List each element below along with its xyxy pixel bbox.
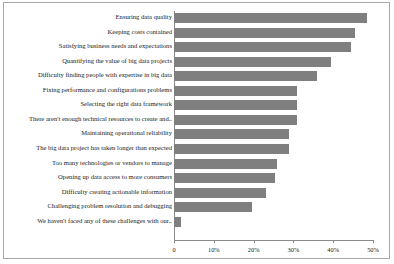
category-label: Quantifying the value of big data projec… xyxy=(4,56,172,67)
bar-row: Challenging problem resolution and debug… xyxy=(0,201,394,216)
bar xyxy=(174,86,297,96)
bar-row: There aren't enough technical resources … xyxy=(0,114,394,129)
category-label: Fixing performance and configurations pr… xyxy=(4,85,172,96)
category-label: Satisfying business needs and expectatio… xyxy=(4,41,172,52)
category-label: Keeping costs contained xyxy=(4,27,172,38)
category-label: Difficulty creating actionable informati… xyxy=(4,187,172,198)
bar-row: Opening up data access to more consumers xyxy=(0,172,394,187)
bar xyxy=(174,159,277,169)
category-label: Challenging problem resolution and debug… xyxy=(4,201,172,212)
x-axis-tick-label: 0 xyxy=(154,245,194,254)
category-label: Selecting the right data framework xyxy=(4,99,172,110)
bar-row: Ensuring data quality xyxy=(0,12,394,27)
x-axis-line xyxy=(174,240,373,241)
bar xyxy=(174,144,289,154)
bar xyxy=(174,129,289,139)
bar-row: Maintaining operational reliability xyxy=(0,128,394,143)
bar xyxy=(174,57,331,67)
bar xyxy=(174,115,297,125)
x-axis-tick-label: 30% xyxy=(273,245,313,254)
bar-row: Quantifying the value of big data projec… xyxy=(0,56,394,71)
x-axis-tick xyxy=(174,240,175,243)
category-label: Maintaining operational reliability xyxy=(4,128,172,139)
bar xyxy=(174,100,297,110)
category-label: We haven't faced any of these challenges… xyxy=(4,216,172,227)
bar-row: Keeping costs contained xyxy=(0,27,394,42)
bar-row: The big data project has taken longer th… xyxy=(0,143,394,158)
bar xyxy=(174,188,266,198)
category-label: Difficulty finding people with expertise… xyxy=(4,70,172,81)
bar xyxy=(174,28,355,38)
x-axis-tick-label: 40% xyxy=(313,245,353,254)
bar xyxy=(174,42,351,52)
category-label: The big data project has taken longer th… xyxy=(4,143,172,154)
x-axis-tick-label: 20% xyxy=(234,245,274,254)
x-axis-tick xyxy=(333,240,334,243)
category-label: Too many technologies or vendors to mana… xyxy=(4,158,172,169)
bar-row: Fixing performance and configurations pr… xyxy=(0,85,394,100)
bar xyxy=(174,13,367,23)
bar-row: We haven't faced any of these challenges… xyxy=(0,216,394,231)
bar-row: Difficulty finding people with expertise… xyxy=(0,70,394,85)
bar-row: Satisfying business needs and expectatio… xyxy=(0,41,394,56)
bar-row: Selecting the right data framework xyxy=(0,99,394,114)
bar-row: Too many technologies or vendors to mana… xyxy=(0,158,394,173)
category-label: There aren't enough technical resources … xyxy=(4,114,172,125)
x-axis-tick xyxy=(373,240,374,243)
bar-row: Difficulty creating actionable informati… xyxy=(0,187,394,202)
bar-chart: Ensuring data qualityKeeping costs conta… xyxy=(0,0,394,264)
x-axis-tick-label: 10% xyxy=(194,245,234,254)
category-label: Opening up data access to more consumers xyxy=(4,172,172,183)
x-axis-tick xyxy=(214,240,215,243)
bar xyxy=(174,173,275,183)
bar xyxy=(174,217,181,227)
bar xyxy=(174,202,252,212)
x-axis-tick xyxy=(293,240,294,243)
x-axis-tick xyxy=(254,240,255,243)
bar xyxy=(174,71,317,81)
x-axis-tick-label: 50% xyxy=(353,245,393,254)
category-label: Ensuring data quality xyxy=(4,12,172,23)
plot-area: Ensuring data qualityKeeping costs conta… xyxy=(0,0,394,264)
